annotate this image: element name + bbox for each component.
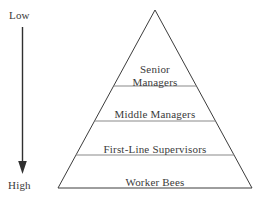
- axis-label-low: Low: [9, 9, 30, 21]
- pyramid-tier-first-line-supervisors: First-Line Supervisors: [0, 130, 260, 156]
- pyramid-tier-label: Senior Managers: [133, 63, 178, 89]
- pyramid-tier-worker-bees: Worker Bees: [0, 163, 260, 189]
- pyramid-tier-label: First-Line Supervisors: [103, 143, 206, 156]
- org-hierarchy-pyramid-diagram: Low High Senior Managers Middle Managers…: [0, 0, 260, 202]
- pyramid-tier-label: Middle Managers: [115, 108, 196, 121]
- pyramid-tier-senior-managers: Senior Managers: [0, 50, 260, 89]
- pyramid-tier-label: Worker Bees: [125, 176, 184, 189]
- pyramid-tier-middle-managers: Middle Managers: [0, 95, 260, 121]
